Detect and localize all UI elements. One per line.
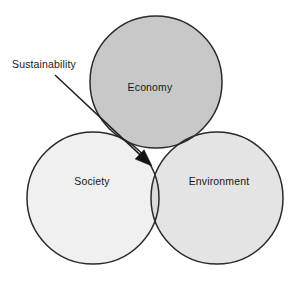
sustainability-venn-diagram: Economy Society Environment Sustainabili… [0, 0, 298, 281]
circle-label-economy: Economy [128, 81, 173, 93]
venn-canvas: Economy Society Environment Sustainabili… [0, 0, 298, 281]
callout-label-sustainability: Sustainability [12, 58, 77, 70]
circle-label-environment: Environment [189, 175, 250, 187]
circle-label-society: Society [74, 175, 110, 187]
